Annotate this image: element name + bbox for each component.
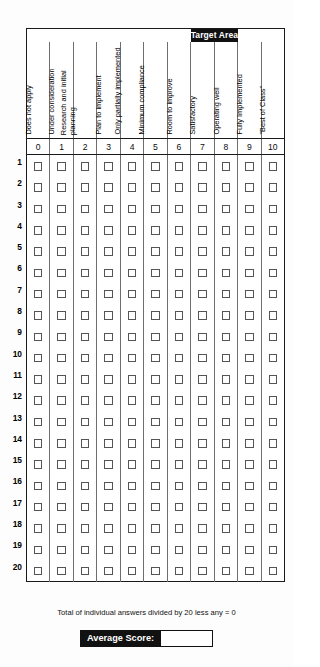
checkbox-q9-s7[interactable]	[198, 333, 207, 342]
checkbox-cell[interactable]	[238, 155, 261, 177]
checkbox-cell[interactable]	[167, 517, 190, 538]
checkbox-q12-s2[interactable]	[81, 396, 90, 405]
checkbox-q14-s1[interactable]	[57, 439, 66, 448]
checkbox-cell[interactable]	[120, 474, 143, 495]
checkbox-q18-s10[interactable]	[269, 524, 278, 533]
checkbox-q15-s9[interactable]	[245, 460, 254, 469]
checkbox-cell[interactable]	[27, 453, 50, 474]
checkbox-q11-s9[interactable]	[245, 375, 254, 384]
checkbox-cell[interactable]	[97, 474, 120, 495]
checkbox-cell[interactable]	[261, 347, 284, 368]
checkbox-q17-s9[interactable]	[245, 503, 254, 512]
checkbox-q14-s3[interactable]	[104, 439, 113, 448]
checkbox-q18-s5[interactable]	[151, 524, 160, 533]
checkbox-q19-s7[interactable]	[198, 546, 207, 555]
checkbox-q1-s9[interactable]	[245, 162, 254, 171]
checkbox-q6-s6[interactable]	[175, 269, 184, 278]
checkbox-cell[interactable]	[191, 325, 214, 346]
checkbox-q2-s9[interactable]	[245, 183, 254, 192]
checkbox-q13-s8[interactable]	[222, 418, 231, 427]
checkbox-cell[interactable]	[214, 538, 237, 559]
checkbox-q20-s9[interactable]	[245, 567, 254, 576]
checkbox-cell[interactable]	[27, 474, 50, 495]
checkbox-cell[interactable]	[144, 347, 167, 368]
checkbox-q18-s2[interactable]	[81, 524, 90, 533]
checkbox-cell[interactable]	[144, 304, 167, 325]
checkbox-cell[interactable]	[167, 283, 190, 304]
checkbox-q1-s8[interactable]	[222, 162, 231, 171]
checkbox-cell[interactable]	[50, 496, 73, 517]
checkbox-q4-s5[interactable]	[151, 226, 160, 235]
checkbox-q8-s9[interactable]	[245, 311, 254, 320]
checkbox-q13-s2[interactable]	[81, 418, 90, 427]
checkbox-q10-s4[interactable]	[128, 354, 137, 363]
checkbox-q17-s2[interactable]	[81, 503, 90, 512]
checkbox-q16-s5[interactable]	[151, 482, 160, 491]
checkbox-q15-s8[interactable]	[222, 460, 231, 469]
checkbox-cell[interactable]	[214, 389, 237, 410]
checkbox-cell[interactable]	[144, 261, 167, 282]
checkbox-cell[interactable]	[73, 155, 96, 177]
checkbox-cell[interactable]	[167, 453, 190, 474]
checkbox-q4-s6[interactable]	[175, 226, 184, 235]
checkbox-cell[interactable]	[167, 432, 190, 453]
checkbox-cell[interactable]	[120, 538, 143, 559]
checkbox-cell[interactable]	[238, 560, 261, 582]
checkbox-q16-s2[interactable]	[81, 482, 90, 491]
checkbox-cell[interactable]	[144, 283, 167, 304]
checkbox-cell[interactable]	[27, 283, 50, 304]
checkbox-q1-s4[interactable]	[128, 162, 137, 171]
checkbox-q13-s9[interactable]	[245, 418, 254, 427]
checkbox-q15-s3[interactable]	[104, 460, 113, 469]
checkbox-q11-s3[interactable]	[104, 375, 113, 384]
checkbox-q12-s10[interactable]	[269, 396, 278, 405]
checkbox-q14-s0[interactable]	[34, 439, 43, 448]
checkbox-cell[interactable]	[144, 240, 167, 261]
checkbox-cell[interactable]	[120, 560, 143, 582]
checkbox-cell[interactable]	[97, 347, 120, 368]
checkbox-q20-s8[interactable]	[222, 567, 231, 576]
checkbox-q1-s3[interactable]	[104, 162, 113, 171]
checkbox-q1-s1[interactable]	[57, 162, 66, 171]
checkbox-q10-s5[interactable]	[151, 354, 160, 363]
checkbox-q16-s0[interactable]	[34, 482, 43, 491]
checkbox-q16-s9[interactable]	[245, 482, 254, 491]
checkbox-cell[interactable]	[144, 453, 167, 474]
checkbox-cell[interactable]	[261, 368, 284, 389]
checkbox-cell[interactable]	[214, 496, 237, 517]
checkbox-q13-s10[interactable]	[269, 418, 278, 427]
checkbox-q11-s10[interactable]	[269, 375, 278, 384]
checkbox-cell[interactable]	[238, 474, 261, 495]
checkbox-q4-s10[interactable]	[269, 226, 278, 235]
checkbox-cell[interactable]	[73, 347, 96, 368]
checkbox-cell[interactable]	[214, 411, 237, 432]
checkbox-q9-s1[interactable]	[57, 333, 66, 342]
checkbox-q9-s8[interactable]	[222, 333, 231, 342]
checkbox-q6-s5[interactable]	[151, 269, 160, 278]
checkbox-cell[interactable]	[167, 176, 190, 197]
checkbox-cell[interactable]	[50, 283, 73, 304]
checkbox-cell[interactable]	[27, 219, 50, 240]
checkbox-q20-s7[interactable]	[198, 567, 207, 576]
checkbox-cell[interactable]	[73, 304, 96, 325]
checkbox-cell[interactable]	[73, 176, 96, 197]
checkbox-cell[interactable]	[261, 432, 284, 453]
checkbox-q13-s4[interactable]	[128, 418, 137, 427]
checkbox-cell[interactable]	[120, 368, 143, 389]
checkbox-q6-s2[interactable]	[81, 269, 90, 278]
checkbox-q18-s3[interactable]	[104, 524, 113, 533]
checkbox-cell[interactable]	[97, 198, 120, 219]
checkbox-q3-s0[interactable]	[34, 205, 43, 214]
checkbox-q5-s6[interactable]	[175, 247, 184, 256]
checkbox-cell[interactable]	[238, 368, 261, 389]
checkbox-cell[interactable]	[261, 389, 284, 410]
checkbox-q5-s2[interactable]	[81, 247, 90, 256]
checkbox-cell[interactable]	[97, 432, 120, 453]
checkbox-q2-s1[interactable]	[57, 183, 66, 192]
checkbox-q13-s5[interactable]	[151, 418, 160, 427]
checkbox-cell[interactable]	[191, 283, 214, 304]
checkbox-q8-s5[interactable]	[151, 311, 160, 320]
checkbox-cell[interactable]	[27, 240, 50, 261]
checkbox-q19-s5[interactable]	[151, 546, 160, 555]
checkbox-q17-s8[interactable]	[222, 503, 231, 512]
